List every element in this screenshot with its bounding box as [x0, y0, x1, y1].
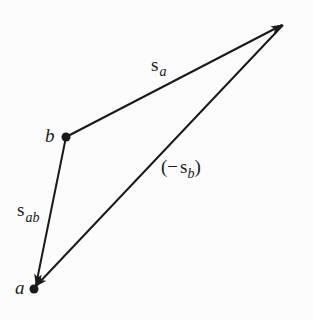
vector-s-ab: [36, 137, 66, 285]
vector-diagram: b a sa (−sb) sab: [0, 0, 313, 320]
point-a-label: a: [15, 277, 25, 298]
point-b-label: b: [45, 125, 55, 146]
point-b-dot: [62, 133, 71, 142]
label-s-a: sa: [151, 54, 166, 79]
point-a-dot: [30, 285, 39, 294]
label-s-ab: sab: [17, 199, 39, 225]
vector-s-a: [66, 25, 282, 137]
label-neg-s-b: (−sb): [161, 156, 201, 181]
